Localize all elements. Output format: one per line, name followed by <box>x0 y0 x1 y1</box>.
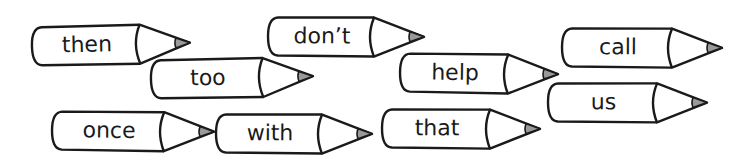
pencil-word-too[interactable]: too <box>149 56 318 105</box>
pencil-word-label: us <box>550 82 657 124</box>
pencil-word-help[interactable]: help <box>398 52 563 100</box>
pencil-word-label: once <box>54 110 164 153</box>
pencil-word-label: call <box>564 27 672 70</box>
pencil-word-with[interactable]: with <box>214 113 376 160</box>
pencil-word-label: that <box>384 108 490 151</box>
pencil-word-that[interactable]: that <box>380 108 544 155</box>
pencil-word-label: then <box>34 24 141 68</box>
pencil-word-call[interactable]: call <box>560 27 726 74</box>
pencil-word-label: with <box>218 113 322 156</box>
pencil-word-label: don’t <box>270 16 374 59</box>
pencil-word-once[interactable]: once <box>50 110 218 158</box>
pencil-word-us[interactable]: us <box>546 82 711 129</box>
pencil-word-label: help <box>402 52 509 95</box>
pencil-word-label: too <box>153 57 264 101</box>
